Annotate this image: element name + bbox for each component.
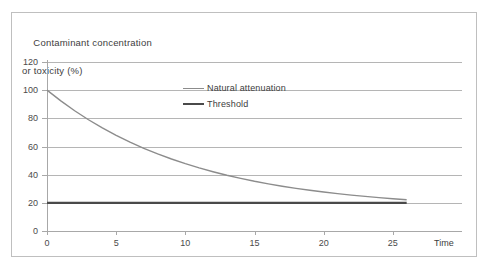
legend-label: Natural attenuation <box>207 83 286 93</box>
legend-swatch-icon <box>183 88 204 89</box>
chart-legend: Natural attenuation Threshold <box>183 80 286 112</box>
legend-item-threshold: Threshold <box>183 96 286 112</box>
series-layer <box>0 0 487 270</box>
legend-swatch-icon <box>183 103 204 105</box>
legend-item-natural-attenuation: Natural attenuation <box>183 80 286 96</box>
chart-figure: Contaminant concentration or toxicity (%… <box>0 0 487 270</box>
legend-label: Threshold <box>207 99 248 109</box>
